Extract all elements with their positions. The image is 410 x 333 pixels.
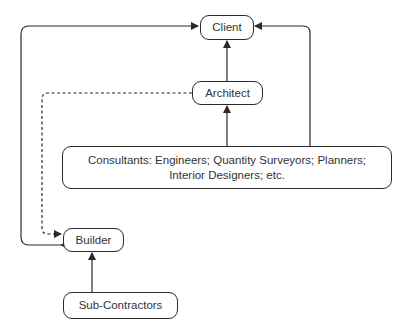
node-builder: Builder	[63, 228, 124, 252]
node-client: Client	[200, 15, 254, 40]
edge-builder-client	[21, 26, 198, 245]
node-consultants: Consultants: Engineers; Quantity Surveyo…	[62, 146, 392, 189]
node-subcontractors: Sub-Contractors	[63, 292, 178, 319]
node-consultants-line2: Interior Designers; etc.	[169, 168, 285, 183]
node-client-label: Client	[212, 20, 241, 35]
edge-consultants-client	[255, 26, 310, 146]
node-subcontractors-label: Sub-Contractors	[79, 298, 163, 313]
node-architect: Architect	[192, 81, 263, 105]
node-consultants-line1: Consultants: Engineers; Quantity Surveyo…	[88, 153, 366, 168]
node-architect-label: Architect	[205, 86, 250, 101]
node-builder-label: Builder	[76, 233, 112, 248]
